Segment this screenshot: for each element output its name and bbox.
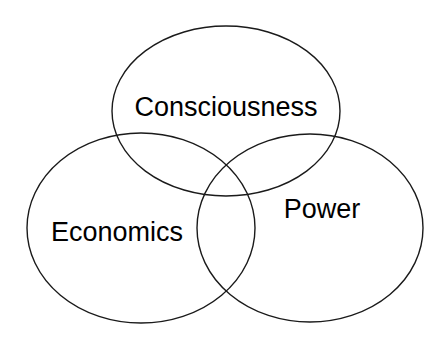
set-label-power: Power: [284, 194, 361, 224]
venn-diagram-svg: Consciousness Economics Power: [0, 0, 448, 347]
set-label-consciousness: Consciousness: [134, 92, 317, 122]
set-circle-power[interactable]: [197, 134, 423, 322]
set-label-economics: Economics: [51, 217, 183, 247]
venn-diagram-canvas: Consciousness Economics Power: [0, 0, 448, 347]
